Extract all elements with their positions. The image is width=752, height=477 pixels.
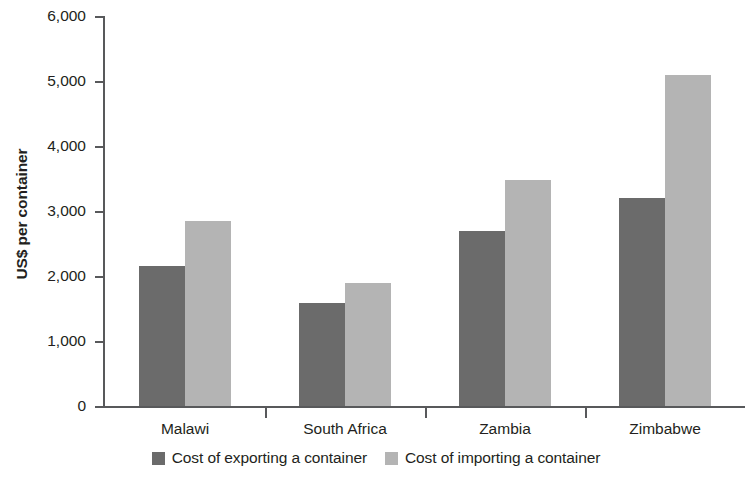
legend-label: Cost of importing a container <box>405 449 600 467</box>
legend-item: Cost of importing a container <box>385 449 600 467</box>
legend-swatch-export-icon <box>152 452 165 465</box>
x-axis-category-label: Zambia <box>425 420 585 438</box>
legend-label: Cost of exporting a container <box>172 449 367 467</box>
legend-swatch-import-icon <box>385 452 398 465</box>
bar-chart: US$ per container 01,0002,0003,0004,0005… <box>0 0 752 477</box>
x-axis-category-label: South Africa <box>265 420 425 438</box>
chart-legend: Cost of exporting a containerCost of imp… <box>0 449 752 467</box>
x-axis-category-label: Zimbabwe <box>585 420 745 438</box>
x-axis-category-labels: MalawiSouth AfricaZambiaZimbabwe <box>0 0 752 477</box>
legend-item: Cost of exporting a container <box>152 449 367 467</box>
x-axis-category-label: Malawi <box>105 420 265 438</box>
